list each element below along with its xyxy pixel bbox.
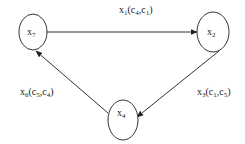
edge-label-x6: x6(c5,c4) [20,86,54,99]
graph-canvas: x7 x2 x4 x1(c4,c1) x3(c1,c5) x6(c5,c4) [0,0,245,144]
node-x4: x4 [108,100,138,140]
edge-label-x3: x3(c1,c5) [197,86,231,99]
edge-x2-to-x4 [137,51,219,117]
node-x7: x7 [19,14,47,50]
edge-x4-to-x7 [36,51,108,113]
node-x2: x2 [197,12,229,52]
edge-label-x1: x1(c4,c1) [119,4,153,17]
